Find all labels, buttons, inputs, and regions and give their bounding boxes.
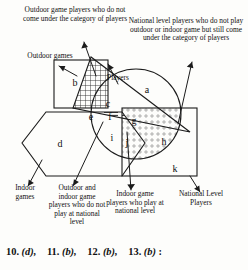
region-label-a: a (145, 84, 150, 95)
region-label-b: b (73, 77, 78, 88)
answer-choice: (b), (62, 246, 77, 257)
region-label-d: d (58, 138, 63, 149)
figure-page: a b c d e f g h i j k Outdoor game playe… (0, 0, 248, 270)
answer-item: 11. (b), (47, 246, 77, 257)
region-label-e: e (89, 111, 94, 122)
caption-national-not-games: National level players who do not play o… (127, 17, 245, 43)
answer-item: 12. (b), (87, 246, 117, 257)
answer-choice: (b), (103, 246, 118, 257)
region-label-i: i (111, 132, 114, 143)
answer-number: 10. (6, 246, 19, 257)
answer-number: 11. (47, 246, 59, 257)
answer-choice: (d), (22, 246, 37, 257)
region-label-k: k (173, 163, 178, 174)
caption-outdoor-indoor-not-national: Outdoor and indoor game players who do n… (48, 184, 106, 227)
caption-players: Players (98, 74, 138, 83)
region-label-h: h (162, 136, 167, 147)
answer-number: 12. (87, 246, 100, 257)
caption-national-level-players: National Level Players (172, 190, 230, 207)
answer-choice: (b) (144, 246, 156, 257)
answer-item: 10. (d), (6, 246, 36, 257)
answer-colon: : (159, 246, 162, 257)
caption-outdoor-games: Outdoor games (26, 52, 74, 61)
caption-outdoor-not-players: Outdoor game players who do not come und… (22, 6, 128, 23)
leader-national-not-games (178, 62, 192, 124)
answers-row: 10. (d), 11. (b), 12. (b), 13. (b) : (0, 246, 248, 257)
region-label-g: g (132, 115, 137, 126)
region-label-j: j (125, 137, 129, 148)
answer-item: 13. (b) : (128, 246, 162, 257)
answer-number: 13. (128, 246, 141, 257)
caption-indoor-national: Indoor game players who play at national… (106, 190, 164, 216)
region-label-c: c (106, 98, 111, 109)
caption-indoor-games: Indoor games (6, 184, 44, 201)
